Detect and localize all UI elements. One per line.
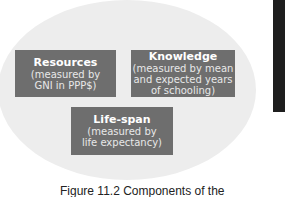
component-box-life-span: Life-span (measured by life expectancy) [71, 107, 173, 155]
component-title: Life-span [93, 114, 150, 126]
component-desc-line: and expected years [133, 74, 232, 85]
component-desc-line: GNI in PPP$) [34, 80, 96, 91]
component-box-knowledge: Knowledge (measured by mean and expected… [131, 50, 235, 97]
component-desc-line: (measured by mean [133, 63, 234, 74]
figure-caption: Figure 11.2 Components of the [60, 184, 225, 197]
component-title: Resources [34, 57, 98, 69]
component-title: Knowledge [149, 51, 218, 63]
component-desc-line: of schooling) [151, 85, 215, 96]
component-desc-line: life expectancy) [82, 137, 162, 148]
component-box-resources: Resources (measured by GNI in PPP$) [15, 50, 116, 97]
component-desc-line: (measured by [87, 126, 156, 137]
side-dark-bar [273, 0, 285, 112]
component-desc-line: (measured by [31, 69, 100, 80]
